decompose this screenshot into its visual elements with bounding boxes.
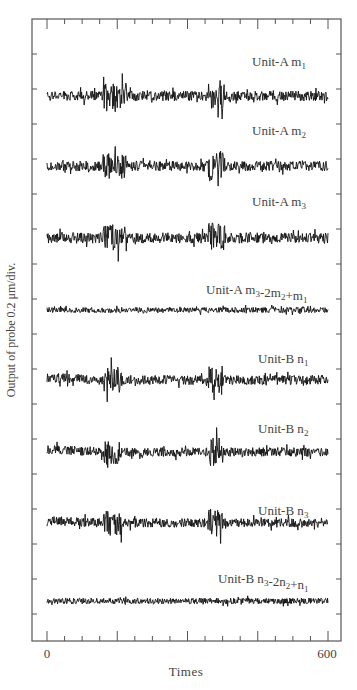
trace-unit-a-m3 (47, 223, 328, 261)
trace-label: Unit-B n1 (258, 351, 308, 368)
trace-unit-a-m3-2m2-m1 (47, 305, 328, 315)
trace-unit-a-m1 (47, 74, 328, 119)
axis-ticks (32, 19, 341, 641)
x-tick-label-0: 0 (44, 646, 51, 661)
trace-unit-a-m2 (47, 146, 328, 186)
trace-label: Unit-B n2 (258, 421, 308, 438)
trace-labels: Unit-A m1Unit-A m2Unit-A m3Unit-A m3-2m2… (206, 54, 309, 594)
probe-output-chart: Unit-A m1Unit-A m2Unit-A m3Unit-A m3-2m2… (0, 0, 357, 690)
plot-frame (32, 19, 341, 641)
x-tick-label-600: 600 (317, 646, 337, 661)
trace-label: Unit-B n3-2n2+n1 (218, 571, 309, 594)
trace-label: Unit-A m3 (252, 194, 306, 211)
signal-traces (47, 74, 328, 607)
trace-label: Unit-A m3-2m2+m1 (206, 282, 307, 305)
trace-label: Unit-A m2 (252, 123, 306, 140)
trace-label: Unit-A m1 (252, 54, 306, 71)
trace-unit-b-n3-2n2-n1 (47, 596, 328, 607)
trace-label: Unit-B n3 (258, 503, 309, 520)
x-axis-label: Times (169, 664, 204, 679)
y-axis-label: Output of probe 0.2 μm/div. (4, 263, 18, 397)
